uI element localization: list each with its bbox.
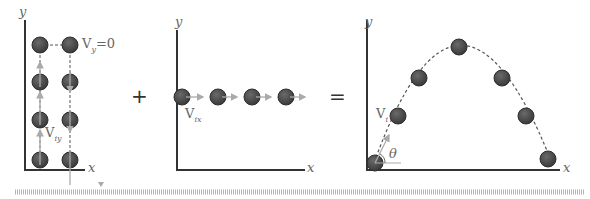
y-axis-label: y bbox=[365, 14, 372, 29]
vi-label: Vi bbox=[376, 106, 388, 124]
trajectory-path bbox=[374, 45, 550, 163]
y-axis-label: y bbox=[19, 4, 26, 19]
vy-zero-label: Vy=0 bbox=[82, 36, 115, 54]
plus-operator: + bbox=[131, 84, 148, 108]
ruler-marker-icon bbox=[98, 182, 104, 187]
x-axis-label: x bbox=[563, 160, 570, 175]
x-axis-label: x bbox=[88, 160, 95, 175]
equals-operator: = bbox=[329, 84, 346, 108]
vix-label: Vix bbox=[185, 106, 201, 124]
y-axis-label: y bbox=[175, 14, 182, 29]
horizontal-motion-panel bbox=[174, 30, 305, 170]
x-axis-label: x bbox=[307, 160, 314, 175]
viy-label: Viy bbox=[45, 125, 61, 143]
theta-label: θ bbox=[389, 146, 397, 161]
